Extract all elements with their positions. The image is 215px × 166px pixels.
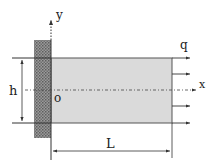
distributed-load-arrows <box>172 58 190 123</box>
origin-label: o <box>54 91 61 105</box>
x-axis-label: x <box>199 78 206 91</box>
y-axis-label: y <box>55 8 63 22</box>
height-label: h <box>9 83 18 98</box>
load-label: q <box>180 38 188 52</box>
cantilever-diagram: y x o h q L <box>0 0 215 166</box>
length-label: L <box>106 136 115 151</box>
plate <box>51 58 172 123</box>
